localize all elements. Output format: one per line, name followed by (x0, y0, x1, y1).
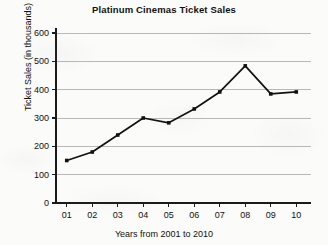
plot-area: 01: 15002: 18003: 24004: 30005: 28306: 3… (0, 0, 328, 245)
data-series-ticket-sales: 01: 15002: 18003: 24004: 30005: 28306: 3… (65, 64, 298, 162)
data-point-marker: 02: 180 (90, 150, 94, 154)
line-chart: Platinum Cinemas Ticket Sales Ticket Sal… (0, 0, 328, 245)
data-point-marker: 05: 283 (167, 121, 171, 125)
data-point-marker: 07: 392 (218, 90, 222, 94)
data-point-marker: 03: 240 (116, 133, 120, 137)
data-point-marker: 10: 392 (294, 90, 298, 94)
gridlines (56, 33, 311, 175)
data-point-marker: 01: 150 (65, 159, 69, 163)
data-point-marker: 09: 385 (269, 92, 273, 96)
data-point-marker: 04: 300 (141, 116, 145, 120)
data-point-marker: 08: 484 (243, 64, 247, 68)
data-point-marker: 06: 332 (192, 107, 196, 111)
